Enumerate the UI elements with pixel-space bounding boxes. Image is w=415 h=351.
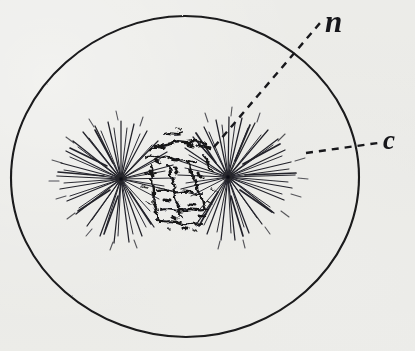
figure-label-n: n: [325, 6, 342, 37]
figure-canvas: [0, 0, 415, 351]
leader-line-c: [306, 143, 378, 153]
aster-right: [178, 107, 308, 249]
cell-division-figure: n c: [0, 0, 415, 351]
figure-label-c: c: [383, 127, 395, 154]
aster-left: [49, 111, 175, 250]
chromatin-mass: [142, 128, 215, 231]
leader-line-n: [214, 23, 320, 147]
